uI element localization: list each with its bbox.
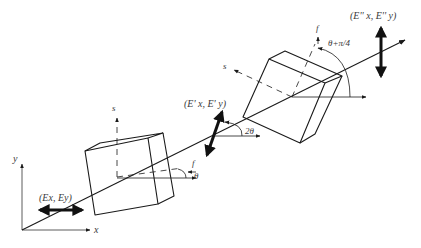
intermediate-polarization-arrow-icon bbox=[207, 112, 222, 155]
output-field-label: (E'' x, E'' y) bbox=[350, 11, 396, 21]
plate-1-angle-arc bbox=[178, 169, 186, 178]
diagram-canvas: y x (Ex, Ey) s f θ (E' x, E' y) 2θ s f θ… bbox=[0, 0, 421, 248]
plate-1-fast-axis bbox=[117, 168, 182, 177]
plate-1-angle-label: θ bbox=[194, 172, 198, 181]
plate-1-fast-axis-label: f bbox=[192, 159, 195, 168]
plate-2-slow-axis-label: s bbox=[223, 62, 227, 71]
two-theta-label: 2θ bbox=[245, 127, 254, 136]
plate-2-fast-axis-label: f bbox=[316, 24, 319, 33]
intermediate-field-label: (E' x, E' y) bbox=[184, 99, 226, 109]
plate-1 bbox=[85, 118, 196, 215]
y-axis-label: y bbox=[13, 154, 17, 164]
plate-2-side-face bbox=[300, 76, 342, 143]
input-field-label: (Ex, Ey) bbox=[39, 193, 72, 203]
two-theta-arc bbox=[225, 122, 242, 136]
plate-2-angle-label: θ+π/4 bbox=[328, 39, 350, 48]
plate-2-top-face bbox=[269, 51, 342, 83]
diagram-graphics bbox=[0, 0, 421, 248]
plate-1-side-face bbox=[158, 133, 174, 204]
plate-1-slow-axis-label: s bbox=[112, 104, 116, 113]
plate-2-slow-axis bbox=[234, 70, 292, 97]
plate-2-front-face bbox=[243, 59, 325, 143]
x-axis-label: x bbox=[94, 225, 98, 235]
